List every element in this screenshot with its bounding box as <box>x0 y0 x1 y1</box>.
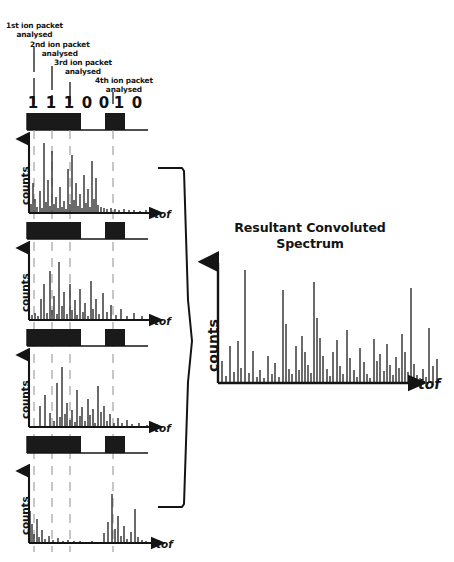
bit-digit-6: 0 <box>130 96 144 111</box>
annotation-2nd-ion-packet: 2nd ion packet analysed <box>30 41 90 58</box>
resultant-y-axis-label: counts <box>205 319 221 372</box>
resultant-spikes <box>222 270 437 383</box>
panel-4-x-axis-label: tof <box>156 538 173 550</box>
resultant-spectrum-chart <box>218 263 437 383</box>
panel-1-y-axis-label: counts <box>19 167 31 205</box>
bit-digit-1: 1 <box>44 96 58 111</box>
panel-3-spikes <box>40 367 147 427</box>
panel-4 <box>29 472 152 543</box>
panel-2-x-axis-label: tof <box>154 315 171 327</box>
annotation-3rd-ion-packet: 3rd ion packet analysed <box>54 59 112 76</box>
pulse-bar-4 <box>27 436 148 453</box>
panel-1-spikes <box>31 143 146 213</box>
resultant-x-axis-label: tof <box>418 376 440 392</box>
bit-digit-2: 1 <box>62 96 76 111</box>
pulse-block-high-2 <box>105 222 125 239</box>
resultant-spectrum-title: Resultant Convoluted Spectrum <box>215 220 405 251</box>
panel-4-spikes <box>30 494 150 543</box>
bit-digit-5: 1 <box>112 96 126 111</box>
panel-2 <box>29 249 150 320</box>
pulse-block-high-1 <box>27 113 81 130</box>
figure-root: 1st ion packet analysed 2nd ion packet a… <box>0 0 454 562</box>
pulse-block-high-2 <box>105 436 125 453</box>
annotation-4th-ion-packet: 4th ion packet analysed <box>95 77 153 94</box>
resultant-title-line-1: Resultant Convoluted <box>215 220 405 236</box>
pulse-block-high-1 <box>27 222 81 239</box>
panel-4-y-axis-label: counts <box>19 497 31 535</box>
panel-1-x-axis-label: tof <box>154 208 171 220</box>
pulse-block-high-2 <box>105 113 125 130</box>
pulse-block-high-2 <box>105 329 125 346</box>
pulse-bar-2 <box>27 222 148 239</box>
panel-2-y-axis-label: counts <box>19 274 31 312</box>
pulse-block-high-1 <box>27 329 81 346</box>
annotation-1st-ion-packet: 1st ion packet analysed <box>6 22 63 39</box>
bit-digit-0: 1 <box>26 96 40 111</box>
pulse-bar-top <box>27 113 148 130</box>
resultant-title-line-2: Spectrum <box>215 236 405 252</box>
pulse-block-high-1 <box>27 436 81 453</box>
figure-canvas <box>0 0 454 562</box>
panel-3 <box>29 356 150 427</box>
bit-digit-4: 0 <box>97 96 111 111</box>
panel-3-y-axis-label: counts <box>19 381 31 419</box>
panel-2-spikes <box>32 262 142 320</box>
panel-1 <box>29 140 150 213</box>
pulse-bar-3 <box>27 329 148 346</box>
panel-3-x-axis-label: tof <box>154 422 171 434</box>
bit-digit-3: 0 <box>80 96 94 111</box>
